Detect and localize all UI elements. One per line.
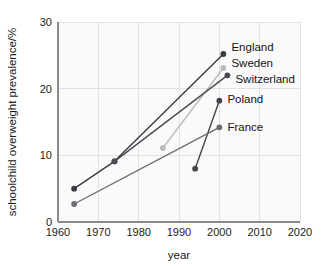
y-tick-label: 30	[40, 16, 52, 28]
y-axis-title: schoolchild overweight prevalence/%	[6, 28, 18, 217]
y-tick-label: 20	[40, 83, 52, 95]
x-tick-label: 1980	[126, 226, 150, 238]
data-point-france	[216, 124, 222, 130]
line-chart: 0102030 1960197019801990200020102020 yea…	[0, 0, 326, 266]
x-tick-label: 1990	[167, 226, 191, 238]
data-point-switzerland	[112, 158, 118, 164]
y-tick-label: 10	[40, 149, 52, 161]
series-label-poland: Poland	[227, 93, 263, 105]
chart-figure: 0102030 1960197019801990200020102020 yea…	[0, 0, 326, 266]
data-point-poland	[192, 166, 198, 172]
x-tick-label: 2020	[288, 226, 312, 238]
x-axis-title: year	[168, 249, 191, 261]
series-label-sweden: Sweden	[231, 57, 273, 69]
data-point-sweden	[160, 145, 166, 151]
data-point-england	[220, 51, 226, 57]
x-tick-labels: 1960197019801990200020102020	[46, 226, 312, 238]
series-label-switzerland: Switzerland	[235, 73, 294, 85]
data-point-sweden	[220, 65, 226, 71]
data-point-poland	[216, 98, 222, 104]
y-tick-labels: 0102030	[40, 16, 52, 228]
x-tick-label: 2010	[247, 226, 271, 238]
x-tick-label: 1960	[46, 226, 70, 238]
data-point-england	[71, 186, 77, 192]
series-label-france: France	[227, 121, 263, 133]
series-label-england: England	[231, 41, 273, 53]
x-tick-label: 2000	[207, 226, 231, 238]
data-point-france	[71, 201, 77, 207]
x-tick-label: 1970	[86, 226, 110, 238]
data-point-switzerland	[225, 72, 231, 78]
